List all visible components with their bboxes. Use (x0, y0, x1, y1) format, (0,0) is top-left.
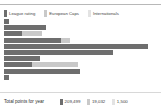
total-value: 19,032 (92, 99, 105, 104)
legend-label: European Caps (49, 11, 79, 16)
legend-item-internationals[interactable]: Internationals (88, 10, 119, 17)
top-divider (0, 4, 161, 5)
bar-row[interactable] (4, 62, 157, 67)
legend-label: League rating (9, 11, 35, 16)
bar-segment[interactable] (4, 50, 113, 55)
totals-group: 209,499 19,032 1,500 (60, 99, 128, 105)
bottom-divider (0, 92, 161, 93)
chart-legend: League rating European Caps Internationa… (4, 9, 119, 17)
bar-row[interactable] (4, 31, 157, 36)
bar-row[interactable] (4, 56, 157, 61)
footer-title: Total points for year (4, 99, 60, 104)
total-value: 1,500 (117, 99, 128, 104)
total-swatch-icon (112, 99, 115, 105)
bar-row[interactable] (4, 38, 157, 43)
legend-swatch-icon (4, 10, 7, 17)
bar-segment[interactable] (22, 31, 42, 36)
bar-segment[interactable] (4, 75, 9, 80)
bar-segment[interactable] (32, 62, 78, 67)
chart-panel: League rating European Caps Internationa… (0, 0, 161, 111)
total-item-internationals: 1,500 (112, 99, 128, 105)
legend-swatch-icon (44, 10, 47, 17)
bar-row[interactable] (4, 75, 157, 80)
bar-segment[interactable] (4, 31, 22, 36)
bar-segment[interactable] (4, 19, 9, 24)
bar-chart-plot (4, 19, 157, 87)
bar-segment[interactable] (4, 62, 32, 67)
bar-row[interactable] (4, 69, 157, 74)
bar-segment[interactable] (4, 25, 46, 30)
legend-label: Internationals (93, 11, 119, 16)
bar-row[interactable] (4, 50, 157, 55)
bar-row[interactable] (4, 25, 157, 30)
bar-row[interactable] (4, 44, 157, 49)
bar-segment[interactable] (4, 56, 40, 61)
bar-segment[interactable] (4, 44, 148, 49)
legend-item-league-rating[interactable]: League rating (4, 10, 35, 17)
total-item-european-caps: 19,032 (87, 99, 105, 105)
chart-footer: Total points for year 209,499 19,032 1,5… (4, 97, 157, 106)
bar-segment[interactable] (4, 69, 80, 74)
bar-row[interactable] (4, 81, 157, 86)
total-swatch-icon (60, 99, 63, 105)
total-value: 209,499 (65, 99, 81, 104)
total-swatch-icon (87, 99, 90, 105)
bar-segment[interactable] (4, 38, 61, 43)
total-item-league-rating: 209,499 (60, 99, 80, 105)
legend-swatch-icon (88, 10, 91, 17)
legend-item-european-caps[interactable]: European Caps (44, 10, 79, 17)
bar-row[interactable] (4, 19, 157, 24)
bar-segment[interactable] (61, 38, 70, 43)
